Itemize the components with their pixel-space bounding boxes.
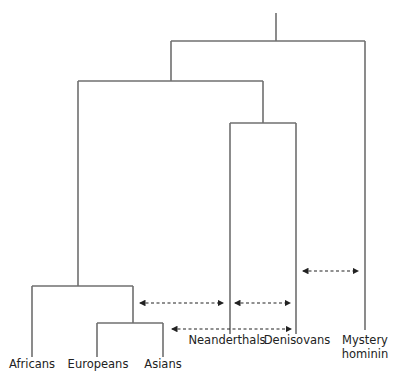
- label-mystery-line2: hominin: [342, 347, 389, 361]
- tree-svg: [0, 0, 398, 384]
- label-mystery-line1: Mystery: [342, 333, 389, 347]
- label-denisovans: Denisovans: [264, 333, 331, 347]
- label-africans: Africans: [9, 357, 55, 371]
- label-mystery-hominin: Mystery hominin: [342, 333, 389, 361]
- label-neanderthals: Neanderthals: [188, 333, 265, 347]
- label-asians: Asians: [144, 357, 181, 371]
- phylogeny-diagram: Africans Europeans Asians Neanderthals D…: [0, 0, 398, 384]
- label-europeans: Europeans: [68, 357, 129, 371]
